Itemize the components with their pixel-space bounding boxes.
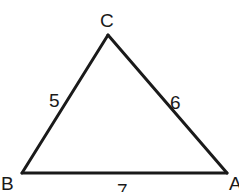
side-label-ba: 7	[117, 180, 128, 192]
triangle-diagram: C B A 5 6 7	[0, 0, 239, 192]
side-ca	[108, 35, 227, 173]
side-label-ca: 6	[170, 92, 181, 113]
side-label-bc: 5	[49, 90, 60, 111]
vertex-label-c: C	[100, 10, 114, 31]
vertex-label-a: A	[229, 173, 239, 192]
side-bc	[22, 35, 108, 173]
vertex-label-b: B	[1, 173, 14, 192]
